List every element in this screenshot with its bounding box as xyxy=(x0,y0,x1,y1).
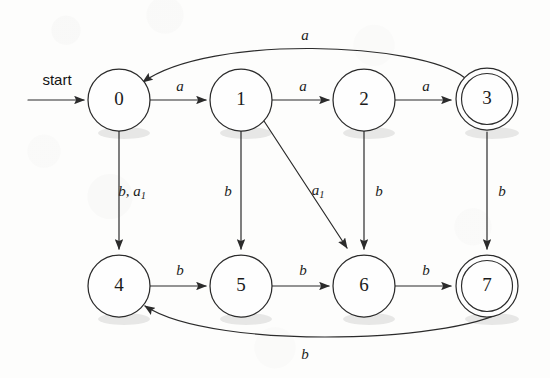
edge-2-to-3: a xyxy=(395,78,451,100)
state-label-0: 0 xyxy=(114,88,124,109)
state-node-5[interactable]: 5 xyxy=(210,255,272,317)
edge-label-0-4: b, a1 xyxy=(118,183,146,201)
start-label: start xyxy=(42,71,72,88)
state-label-3: 3 xyxy=(482,87,492,108)
edge-2-to-6: b xyxy=(364,131,383,249)
edge-0-to-4: b, a1 xyxy=(118,131,146,249)
automaton-canvas: start a a a a xyxy=(0,0,550,378)
edge-label-2-6: b xyxy=(375,183,383,199)
edge-label-1-6: a1 xyxy=(312,182,325,200)
state-node-6[interactable]: 6 xyxy=(333,255,395,317)
state-node-4[interactable]: 4 xyxy=(88,255,150,317)
state-label-2: 2 xyxy=(359,88,369,109)
state-label-5: 5 xyxy=(236,274,246,295)
edge-1-to-6: a1 xyxy=(264,121,347,248)
edge-4-to-5: b xyxy=(150,262,206,286)
state-label-1: 1 xyxy=(236,88,246,109)
state-label-6: 6 xyxy=(359,274,369,295)
edge-0-to-1: a xyxy=(150,78,206,100)
edge-label-6-7: b xyxy=(422,262,430,278)
edge-label-5-6: b xyxy=(299,262,307,278)
edge-label-0-1: a xyxy=(176,78,184,94)
state-node-0[interactable]: 0 xyxy=(88,69,150,131)
node-shadows xyxy=(98,127,519,325)
edge-label-3-0: a xyxy=(301,27,309,43)
edge-5-to-6: b xyxy=(272,262,329,286)
automaton-diagram: start a a a a xyxy=(0,0,550,378)
edge-label-1-5: b xyxy=(224,183,232,199)
edge-1-to-5: b xyxy=(224,131,241,249)
state-node-2[interactable]: 2 xyxy=(333,69,395,131)
edge-1-to-2: a xyxy=(272,78,329,100)
edge-7-to-4: b xyxy=(145,306,509,362)
state-node-7-accepting[interactable]: 7 xyxy=(456,255,518,317)
edge-label-3-7: b xyxy=(498,183,506,199)
edge-3-to-0: a xyxy=(143,27,465,82)
state-label-4: 4 xyxy=(114,274,124,295)
edge-3-to-7: b xyxy=(487,132,506,249)
edge-6-to-7: b xyxy=(395,262,451,286)
edge-label-2-3: a xyxy=(422,78,430,94)
edge-label-7-4: b xyxy=(301,346,309,362)
state-label-7: 7 xyxy=(482,274,492,295)
edge-label-4-5: b xyxy=(176,262,184,278)
state-node-3-accepting[interactable]: 3 xyxy=(456,68,518,130)
state-node-1[interactable]: 1 xyxy=(210,69,272,131)
edge-label-1-2: a xyxy=(299,78,307,94)
